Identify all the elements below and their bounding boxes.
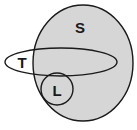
set-t-label: T — [17, 54, 26, 71]
set-s-label: S — [75, 19, 85, 36]
venn-diagram-svg: S T L — [0, 0, 137, 130]
venn-diagram-canvas: S T L — [0, 0, 137, 130]
set-l-label: L — [52, 82, 61, 99]
